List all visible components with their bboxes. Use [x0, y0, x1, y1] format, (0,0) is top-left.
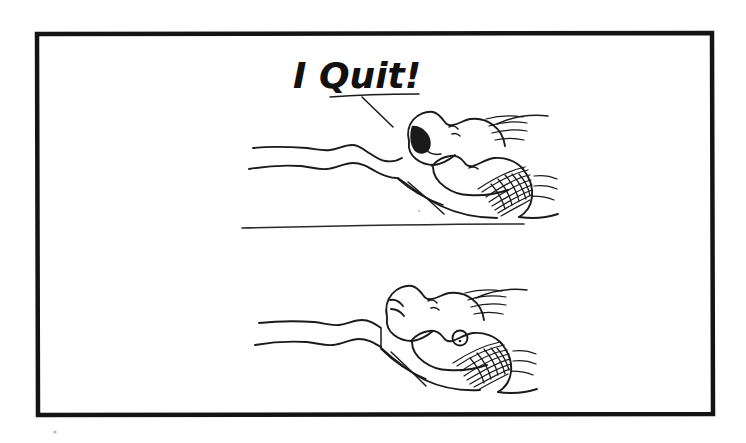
cartoon-illustration: I Quit! [0, 0, 746, 443]
cartoon-page: I Quit! [0, 0, 746, 443]
caption-i-quit: I Quit! [293, 55, 421, 96]
paper-speck [418, 210, 420, 212]
paper-speck [53, 430, 56, 433]
eye-pupil [459, 340, 462, 343]
